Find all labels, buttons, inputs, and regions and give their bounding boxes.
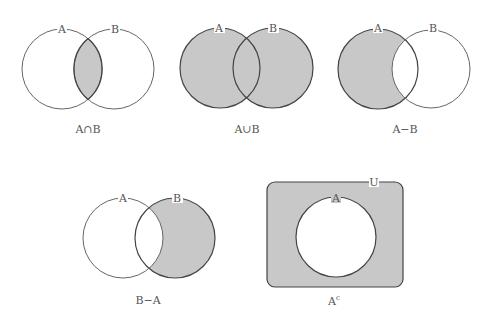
set-a-circle xyxy=(296,197,376,277)
universe-label: U xyxy=(369,176,378,189)
diagram-intersection: A B A∩B xyxy=(22,23,154,136)
diagram-b-minus-a: A B B−A xyxy=(83,192,215,307)
diagram-union: A B A∪B xyxy=(180,22,313,136)
set-a-label: A xyxy=(118,192,128,205)
diagram-caption: B−A xyxy=(135,294,161,307)
set-b-label: B xyxy=(429,22,437,35)
set-a-label: A xyxy=(57,23,67,36)
caption-superscript: c xyxy=(336,294,340,302)
set-a-label: A xyxy=(373,22,383,35)
set-a-label: A xyxy=(331,192,341,205)
set-b-label: B xyxy=(269,22,277,35)
venn-diagram-sheet: A B A∩B A B A∪B A B A−B A B B−A xyxy=(0,0,495,319)
diagram-a-minus-b: A B A−B xyxy=(338,22,470,136)
diagram-caption: A−B xyxy=(391,123,417,136)
diagram-caption: A∩B xyxy=(74,123,100,136)
set-b-label: B xyxy=(111,23,119,36)
set-a-label: A xyxy=(214,22,224,35)
set-b-label: B xyxy=(173,192,181,205)
diagram-caption: Ac xyxy=(327,294,340,308)
diagram-caption: A∪B xyxy=(233,123,259,136)
diagram-complement: U A Ac xyxy=(267,176,403,308)
